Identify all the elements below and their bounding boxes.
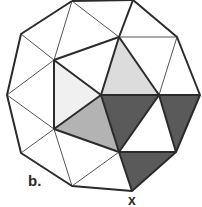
dark-triangle-bottom	[119, 152, 176, 191]
polyhedron-net-figure: b. x	[0, 0, 202, 207]
thick-edges	[7, 0, 200, 191]
panel-label: b.	[28, 173, 41, 188]
vertex-label-x: x	[128, 193, 136, 207]
